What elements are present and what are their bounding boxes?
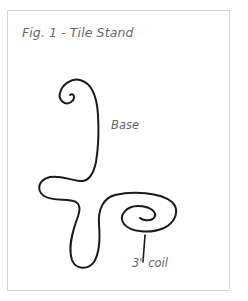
tile-stand-drawing: [0, 0, 248, 301]
coil-label: 3" coil: [132, 256, 168, 270]
base-curve: [39, 80, 176, 268]
base-label: Base: [111, 118, 139, 132]
